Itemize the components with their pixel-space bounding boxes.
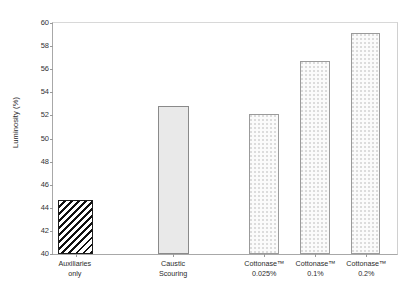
y-tick-label: 42 <box>41 227 49 235</box>
x-axis-label: Cottonase™0.2% <box>325 259 408 278</box>
y-tick-label: 50 <box>41 135 49 143</box>
y-axis-title: Luminosity (%) <box>11 75 20 171</box>
y-tick-label: 48 <box>41 158 49 166</box>
bar-3 <box>249 114 279 254</box>
x-axis-label-line2: only <box>33 269 116 279</box>
x-tick-mark <box>173 254 174 257</box>
y-tick-label: 46 <box>41 181 49 189</box>
x-tick-mark <box>366 254 367 257</box>
y-tick-label: 56 <box>41 65 49 73</box>
x-axis-label-line1: Auxiliaries <box>33 259 116 269</box>
bar-5 <box>351 33 381 254</box>
y-tick-label: 40 <box>41 250 49 258</box>
bars-layer <box>53 23 397 254</box>
bar-4 <box>300 61 330 254</box>
plot-area: 4042444648505254565860 <box>52 22 398 255</box>
x-tick-mark <box>315 254 316 257</box>
x-axis-label: CausticScouring <box>132 259 215 278</box>
bar-1 <box>58 200 93 254</box>
bar-chart: Luminosity (%) 4042444648505254565860 Au… <box>0 0 420 299</box>
x-axis-category-labels: AuxiliariesonlyCausticScouringCottonase™… <box>52 259 398 295</box>
x-axis-label-line1: Caustic <box>132 259 215 269</box>
x-tick-mark <box>264 254 265 257</box>
y-tick-label: 52 <box>41 112 49 120</box>
y-tick-label: 58 <box>41 42 49 50</box>
x-axis-label-line2: Scouring <box>132 269 215 279</box>
x-tick-mark <box>76 254 77 257</box>
x-axis-label: Auxiliariesonly <box>33 259 116 278</box>
bar-2 <box>158 106 189 254</box>
x-axis-label-line2: 0.2% <box>325 269 408 279</box>
y-tick-label: 44 <box>41 204 49 212</box>
y-tick-mark <box>50 254 53 255</box>
y-tick-label: 60 <box>41 19 49 27</box>
x-axis-label-line1: Cottonase™ <box>325 259 408 269</box>
y-tick-label: 54 <box>41 89 49 97</box>
